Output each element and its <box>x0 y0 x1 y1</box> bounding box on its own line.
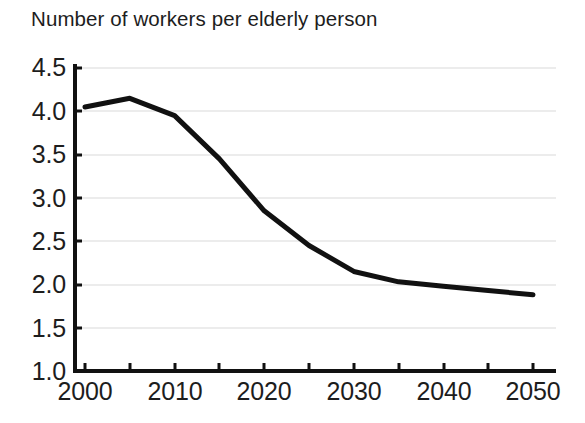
y-tick-label-2-5: 2.5 <box>8 229 66 254</box>
x-tick-label-2030: 2030 <box>309 379 399 404</box>
chart-figure: Number of workers per elderly person <box>0 0 585 423</box>
data-series-line <box>85 98 533 295</box>
y-tick-label-4-5: 4.5 <box>8 55 66 80</box>
x-tick-label-2010: 2010 <box>130 379 220 404</box>
x-tick-label-2040: 2040 <box>399 379 489 404</box>
y-tick-label-3-5: 3.5 <box>8 142 66 167</box>
y-tick-label-4-0: 4.0 <box>8 99 66 124</box>
x-tick-label-2020: 2020 <box>219 379 309 404</box>
y-tick-label-1-5: 1.5 <box>8 316 66 341</box>
x-tick-label-2000: 2000 <box>40 379 130 404</box>
line-chart-plot <box>0 0 585 423</box>
x-tick-label-2050: 2050 <box>488 379 578 404</box>
y-tick-label-2-0: 2.0 <box>8 272 66 297</box>
y-tick-label-3-0: 3.0 <box>8 186 66 211</box>
